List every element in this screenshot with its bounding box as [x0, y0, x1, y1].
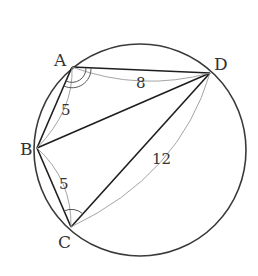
segment-cd [71, 73, 210, 227]
length-label-ad: 8 [136, 74, 146, 92]
vertex-label-b: B [20, 139, 33, 159]
vertex-label-a: A [53, 50, 67, 70]
segment-ad [72, 67, 210, 73]
vertex-label-d: D [214, 54, 228, 74]
length-label-ab: 5 [61, 101, 71, 119]
angle-mark-c [64, 209, 83, 214]
length-label-cd: 12 [152, 150, 171, 168]
vertex-label-c: C [58, 232, 71, 252]
geometry-diagram: A B C D 5 8 5 12 [0, 0, 258, 276]
length-label-bc: 5 [59, 175, 69, 193]
